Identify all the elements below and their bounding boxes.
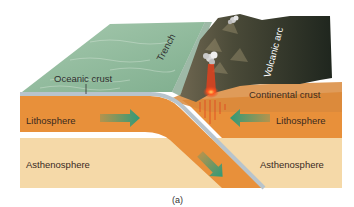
label-asthenosphere-left: Asthenosphere [26, 159, 90, 170]
figure-caption: (a) [172, 195, 183, 205]
label-lithosphere-right: Lithosphere [276, 115, 326, 126]
label-asthenosphere-right: Asthenosphere [260, 159, 324, 170]
label-lithosphere-left: Lithosphere [26, 115, 76, 126]
subduction-diagram: Oceanic crust Trench Volcanic arc Contin… [0, 0, 354, 207]
magma-chamber [203, 86, 219, 98]
label-oceanic-crust: Oceanic crust [54, 73, 112, 84]
label-continental-crust: Continental crust [249, 89, 321, 100]
